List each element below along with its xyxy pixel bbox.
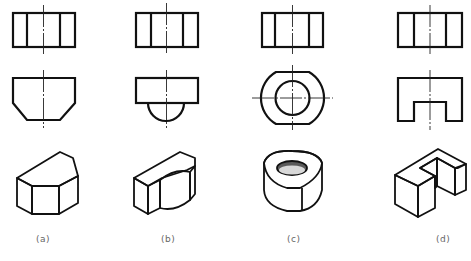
- front-view-d: [398, 5, 462, 54]
- front-view-c: [262, 5, 323, 54]
- label-d: (d): [436, 234, 450, 244]
- top-view-b: [136, 70, 198, 128]
- top-view-d: [398, 70, 462, 130]
- figure-d: [395, 5, 466, 217]
- drawing-canvas: [0, 0, 471, 261]
- top-view-c: [252, 65, 333, 130]
- isometric-view-a: [17, 152, 78, 214]
- isometric-view-b: [134, 152, 195, 214]
- figure-b: [134, 3, 198, 214]
- front-view-b: [136, 3, 198, 54]
- front-view-a: [13, 5, 75, 54]
- label-c: (c): [287, 234, 300, 244]
- isometric-view-d: [395, 149, 466, 217]
- figure-a: [13, 5, 78, 214]
- label-b: (b): [161, 234, 175, 244]
- label-a: (a): [36, 234, 50, 244]
- top-view-a: [13, 70, 75, 128]
- isometric-view-c: [264, 151, 322, 211]
- figure-c: [252, 5, 333, 211]
